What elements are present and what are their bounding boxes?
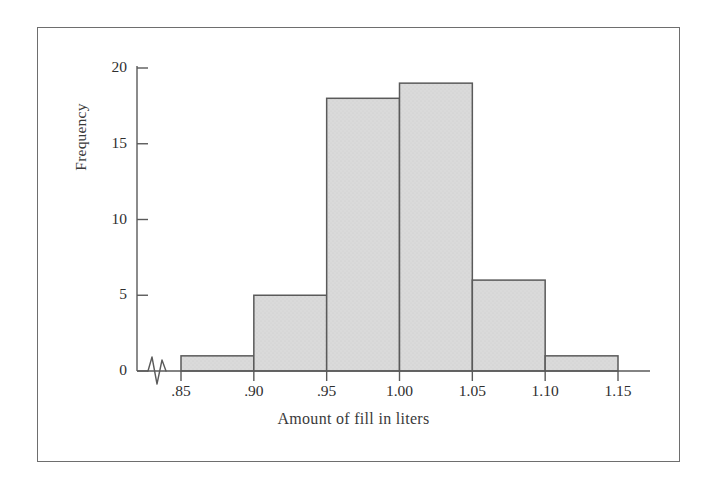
x-axis-tick-label: .95 xyxy=(297,382,357,400)
x-axis-ticks xyxy=(181,371,618,381)
x-axis-tick-label: 1.10 xyxy=(515,382,575,400)
y-axis-tick-label: 0 xyxy=(87,361,127,379)
x-axis-tick-label: .90 xyxy=(224,382,284,400)
histogram-bar xyxy=(400,83,473,371)
histogram-bar xyxy=(545,356,618,371)
x-axis-title: Amount of fill in liters xyxy=(0,410,707,428)
y-axis-tick-label: 5 xyxy=(87,285,127,303)
y-axis-tick-label: 15 xyxy=(87,134,127,152)
histogram-bar xyxy=(327,98,400,371)
y-axis-ticks xyxy=(137,68,148,371)
y-axis-tick-label: 20 xyxy=(87,58,127,76)
y-axis-tick-label: 10 xyxy=(87,210,127,228)
x-axis-tick-label: 1.00 xyxy=(370,382,430,400)
x-axis-tick-label: 1.15 xyxy=(588,382,648,400)
x-axis-tick-label: .85 xyxy=(151,382,211,400)
histogram-bar xyxy=(472,280,545,371)
histogram-bar xyxy=(254,295,327,371)
histogram-bar xyxy=(181,356,254,371)
histogram-bars xyxy=(181,83,618,371)
x-axis-tick-label: 1.05 xyxy=(442,382,502,400)
